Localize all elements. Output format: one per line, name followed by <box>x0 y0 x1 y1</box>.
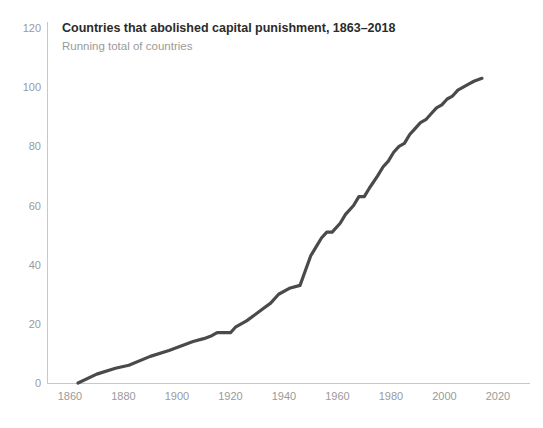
x-tick-label: 1940 <box>272 390 296 402</box>
x-axis: 186018801900192019401960198020002020 <box>48 384 531 403</box>
x-tick-label: 1880 <box>111 390 135 402</box>
y-tick-label: 60 <box>29 200 41 212</box>
y-tick-label: 120 <box>23 22 41 34</box>
chart-container: Countries that abolished capital punishm… <box>0 0 543 428</box>
x-tick-label: 2020 <box>486 390 510 402</box>
x-axis-tick-labels: 186018801900192019401960198020002020 <box>58 390 510 402</box>
x-tick-label: 2000 <box>432 390 456 402</box>
y-tick-label: 40 <box>29 259 41 271</box>
y-tick-label: 0 <box>35 377 41 389</box>
y-tick-label: 20 <box>29 318 41 330</box>
x-tick-label: 1960 <box>325 390 349 402</box>
y-tick-label: 100 <box>23 81 41 93</box>
data-series-line <box>78 78 482 383</box>
x-tick-label: 1860 <box>58 390 82 402</box>
y-axis: 020406080100120 <box>23 22 48 389</box>
line-chart: Countries that abolished capital punishm… <box>0 0 543 428</box>
chart-header: Countries that abolished capital punishm… <box>62 21 395 52</box>
chart-title: Countries that abolished capital punishm… <box>62 21 395 35</box>
x-tick-label: 1980 <box>379 390 403 402</box>
x-tick-label: 1920 <box>218 390 242 402</box>
y-axis-tick-labels: 020406080100120 <box>23 22 41 389</box>
chart-subtitle: Running total of countries <box>62 40 193 52</box>
plot-area <box>78 78 482 383</box>
y-tick-label: 80 <box>29 140 41 152</box>
x-tick-label: 1900 <box>165 390 189 402</box>
